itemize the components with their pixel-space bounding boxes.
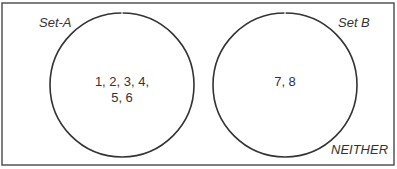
set-a-elements-line2: 5, 6	[82, 90, 162, 106]
set-a-elements-line1: 1, 2, 3, 4,	[82, 74, 162, 90]
set-a-label: Set-A	[39, 15, 72, 30]
set-b-elements: 7, 8	[255, 74, 315, 90]
set-b-label: Set B	[338, 15, 370, 30]
set-a-elements: 1, 2, 3, 4, 5, 6	[82, 74, 162, 106]
set-b-elements-line1: 7, 8	[255, 74, 315, 90]
neither-label: NEITHER	[331, 142, 388, 157]
